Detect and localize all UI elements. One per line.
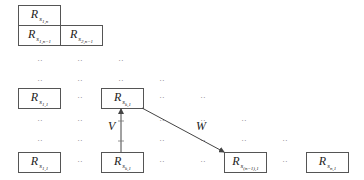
w-label: W bbox=[196, 119, 206, 134]
v-label: V bbox=[108, 119, 115, 134]
arrows-layer bbox=[0, 0, 364, 180]
w-arrow bbox=[142, 108, 224, 152]
